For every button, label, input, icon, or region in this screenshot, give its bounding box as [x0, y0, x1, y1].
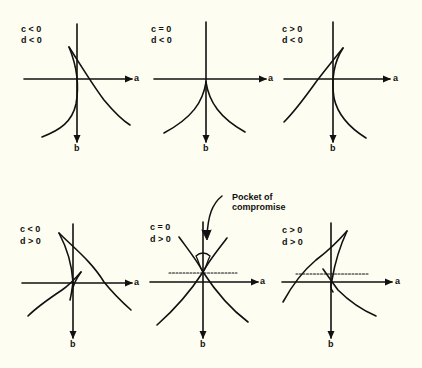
panel-2-c-label: c = 0: [151, 24, 171, 35]
panel-1-d-label: d < 0: [21, 35, 42, 46]
diagram-canvas: [0, 0, 422, 368]
pocket-of-compromise-label-line2: compromise: [232, 202, 286, 212]
panel-5-c-label: c = 0: [150, 222, 170, 233]
panel-3-b-axis-label: b: [330, 143, 336, 153]
bifurcation-curve-right-descending: [179, 237, 248, 322]
panel-3-c-label: c > 0: [282, 24, 302, 35]
catastrophe-diagram-figure: c < 0 d < 0 c = 0 d < 0 c > 0 d < 0 c < …: [0, 0, 422, 368]
panel-1-c-label: c < 0: [21, 24, 41, 35]
bifurcation-curve-left: [284, 48, 343, 122]
panel-6-b-axis-label: b: [328, 339, 334, 349]
bifurcation-curve-right: [206, 82, 245, 132]
panel-3-a-axis-label: a: [393, 73, 398, 83]
panel-4-a-axis-label: a: [134, 277, 139, 287]
panel-4-b-axis-label: b: [70, 339, 76, 349]
panel-5-b-axis-label: b: [200, 339, 206, 349]
panel-4-d-label: d > 0: [20, 236, 41, 247]
panel-1-a-axis-label: a: [134, 73, 139, 83]
panel-5-a-axis-label: a: [260, 276, 265, 286]
bifurcation-curve-right: [333, 48, 366, 138]
panel-4-c-label: c < 0: [20, 224, 40, 235]
panel-2-a-axis-label: a: [268, 73, 273, 83]
panel-6-a-axis-label: a: [395, 276, 400, 286]
panel-5-curves: [150, 196, 258, 338]
pocket-of-compromise-label-line1: Pocket of: [232, 192, 273, 202]
panel-5-d-label: d > 0: [150, 234, 171, 245]
panel-2-b-axis-label: b: [203, 143, 209, 153]
panel-3-d-label: d < 0: [282, 35, 303, 46]
panel-6-d-label: d > 0: [282, 237, 303, 248]
bifurcation-curve-left: [42, 47, 78, 137]
bifurcation-curve-left: [164, 82, 206, 133]
panel-1-b-axis-label: b: [74, 143, 80, 153]
panel-6-c-label: c > 0: [282, 225, 302, 236]
panel-2-d-label: d < 0: [151, 35, 172, 46]
